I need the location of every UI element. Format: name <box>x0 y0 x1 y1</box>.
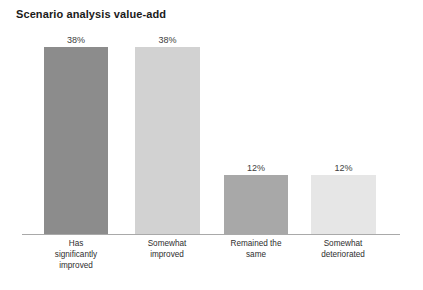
bar-group-1: 38% <box>44 0 108 234</box>
category-label-1-line-2: significantly <box>26 250 126 261</box>
bar-rect-remained-the-same[interactable] <box>224 175 288 234</box>
category-label-3: Remained the same <box>206 239 306 261</box>
bar-column-4: 12% <box>311 0 376 234</box>
category-label-4-line-2: deteriorated <box>293 250 393 261</box>
bar-value-label-4: 12% <box>311 163 376 174</box>
category-label-4-line-1: Somewhat <box>293 239 393 250</box>
category-label-2-line-2: improved <box>117 250 217 261</box>
category-label-1: Has significantly improved <box>26 239 126 271</box>
category-label-3-line-1: Remained the <box>206 239 306 250</box>
bar-column-1: 38% <box>44 0 108 234</box>
bar-value-label-3: 12% <box>224 163 288 174</box>
bar-group-4: 12% <box>311 0 376 234</box>
chart-canvas: Scenario analysis value-add 38% 38% 12% <box>0 0 423 290</box>
category-label-3-line-2: same <box>206 250 306 261</box>
category-label-1-line-3: improved <box>26 261 126 272</box>
bar-column-2: 38% <box>135 0 200 234</box>
category-label-2-line-1: Somewhat <box>117 239 217 250</box>
category-label-4: Somewhat deteriorated <box>293 239 393 261</box>
bar-group-3: 12% <box>224 0 288 234</box>
bar-rect-somewhat-deteriorated[interactable] <box>311 175 376 234</box>
category-label-2: Somewhat improved <box>117 239 217 261</box>
bar-column-3: 12% <box>224 0 288 234</box>
plot-area: 38% 38% 12% 12% Has <box>0 0 423 290</box>
bar-value-label-1: 38% <box>44 35 108 46</box>
bar-rect-somewhat-improved[interactable] <box>135 47 200 234</box>
x-axis-line <box>22 234 400 235</box>
bar-value-label-2: 38% <box>135 35 200 46</box>
category-label-1-line-1: Has <box>26 239 126 250</box>
bar-rect-has-significantly-improved[interactable] <box>44 47 108 234</box>
bar-group-2: 38% <box>135 0 200 234</box>
